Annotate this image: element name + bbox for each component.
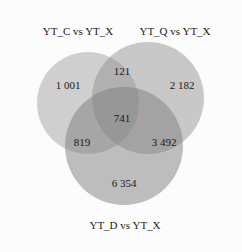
count-c-only: 1 001 (56, 79, 81, 91)
count-cqd: 741 (114, 112, 131, 124)
count-d-only: 6 354 (112, 177, 137, 189)
set-label-yt-c: YT_C vs YT_X (43, 25, 113, 37)
count-cq: 121 (114, 65, 131, 77)
set-label-yt-d: YT_D vs YT_X (89, 219, 160, 231)
count-qd: 3 492 (152, 136, 177, 148)
set-label-yt-q: YT_Q vs YT_X (139, 25, 210, 37)
venn-diagram: YT_C vs YT_X YT_Q vs YT_X YT_D vs YT_X 1… (0, 0, 242, 252)
count-q-only: 2 182 (170, 79, 195, 91)
venn-circles (0, 0, 242, 252)
count-cd: 819 (74, 136, 91, 148)
